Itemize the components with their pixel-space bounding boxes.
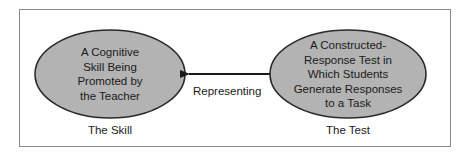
test-caption: The Test — [298, 124, 398, 136]
skill-line: Skill Being — [50, 60, 170, 75]
test-line: Generate Responses — [278, 82, 418, 97]
test-line: A Constructed- — [278, 38, 418, 53]
skill-caption: The Skill — [60, 124, 160, 136]
test-line: to a Task — [278, 96, 418, 111]
test-line: Which Students — [278, 67, 418, 82]
skill-line: Promoted by — [50, 74, 170, 89]
skill-line: A Cognitive — [50, 45, 170, 60]
edge-label: Representing — [193, 85, 261, 97]
test-node-text: A Constructed- Response Test in Which St… — [278, 38, 418, 111]
skill-line: the Teacher — [50, 89, 170, 104]
test-line: Response Test in — [278, 53, 418, 68]
skill-node-text: A Cognitive Skill Being Promoted by the … — [50, 45, 170, 103]
